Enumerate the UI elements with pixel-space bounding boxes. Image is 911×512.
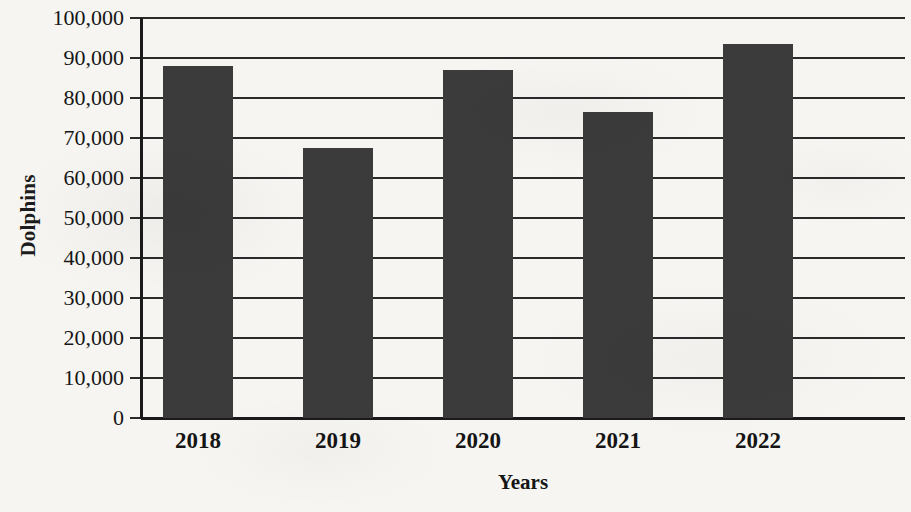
gridline — [141, 17, 905, 19]
bar — [583, 112, 653, 418]
y-tick-label: 80,000 — [0, 85, 132, 111]
y-axis-line — [140, 18, 143, 419]
y-tick-label: 100,000 — [0, 5, 132, 31]
bar-chart: Dolphins 010,00020,00030,00040,00050,000… — [0, 0, 911, 512]
bar — [303, 148, 373, 418]
x-tick-label: 2022 — [735, 428, 781, 454]
y-tick-label: 0 — [0, 405, 132, 431]
y-tick-label: 40,000 — [0, 245, 132, 271]
plot-area — [141, 18, 905, 418]
y-tick-label: 50,000 — [0, 205, 132, 231]
x-tick-label: 2021 — [595, 428, 641, 454]
y-tick-label: 30,000 — [0, 285, 132, 311]
bar — [723, 44, 793, 418]
bar — [443, 70, 513, 418]
y-tick-label: 60,000 — [0, 165, 132, 191]
x-axis-tick-labels: 20182019202020212022 — [141, 428, 905, 468]
x-tick-label: 2019 — [315, 428, 361, 454]
y-tick-label: 10,000 — [0, 365, 132, 391]
y-tick-label: 20,000 — [0, 325, 132, 351]
x-tick-label: 2018 — [175, 428, 221, 454]
x-tick-label: 2020 — [455, 428, 501, 454]
bar — [163, 66, 233, 418]
y-axis-tick-labels: 010,00020,00030,00040,00050,00060,00070,… — [0, 0, 132, 512]
y-tick-label: 90,000 — [0, 45, 132, 71]
y-tick-label: 70,000 — [0, 125, 132, 151]
x-axis-title: Years — [141, 470, 905, 495]
